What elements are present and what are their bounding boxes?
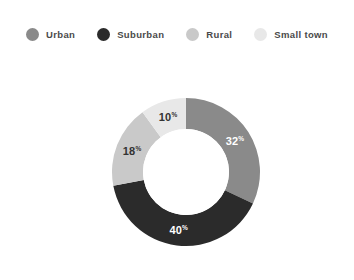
chart-legend: Urban Suburban Rural Small town [0, 28, 354, 41]
legend-item-suburban[interactable]: Suburban [97, 28, 164, 41]
legend-item-label: Rural [206, 30, 232, 40]
legend-item-label: Suburban [117, 30, 164, 40]
donut-hole [143, 129, 229, 215]
donut-plot-area: 32%40%18%10% [111, 97, 261, 247]
legend-item-rural[interactable]: Rural [186, 28, 232, 41]
donut-svg: 32%40%18%10% [111, 97, 261, 247]
legend-item-label: Small town [274, 30, 328, 40]
legend-swatch-icon [254, 28, 267, 41]
legend-item-label: Urban [46, 30, 75, 40]
legend-swatch-icon [26, 28, 39, 41]
legend-swatch-icon [97, 28, 110, 41]
donut-chart-figure: Urban Suburban Rural Small town 32%40%18… [0, 0, 354, 280]
legend-item-urban[interactable]: Urban [26, 28, 75, 41]
legend-swatch-icon [186, 28, 199, 41]
legend-item-small-town[interactable]: Small town [254, 28, 328, 41]
